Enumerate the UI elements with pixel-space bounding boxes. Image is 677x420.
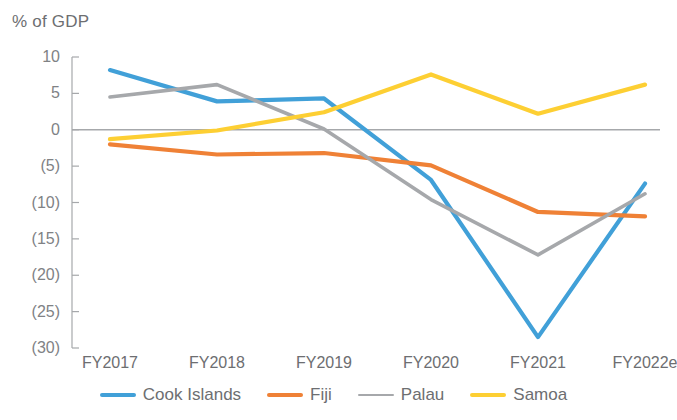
y-axis-tick-label: (25) xyxy=(0,303,60,321)
y-axis-tick-label: 5 xyxy=(0,84,60,102)
legend-swatch-icon xyxy=(100,393,136,397)
x-axis-tick-label: FY2018 xyxy=(189,354,245,372)
legend-swatch-icon xyxy=(358,394,394,396)
x-axis-tick-label: FY2019 xyxy=(296,354,352,372)
legend-item-samoa[interactable]: Samoa xyxy=(470,385,567,405)
y-axis-tick-label: 0 xyxy=(0,121,60,139)
legend-swatch-icon xyxy=(470,393,506,397)
x-axis-tick-label: FY2017 xyxy=(82,354,138,372)
chart-legend: Cook IslandsFijiPalauSamoa xyxy=(0,385,667,405)
x-axis-tick-label: FY2022e xyxy=(613,354,677,372)
legend-item-label: Fiji xyxy=(310,385,332,405)
legend-item-label: Cook Islands xyxy=(143,385,241,405)
legend-swatch-icon xyxy=(267,393,303,397)
y-axis-tick-label: (20) xyxy=(0,266,60,284)
y-axis-tick-label: (10) xyxy=(0,194,60,212)
series-line-palau xyxy=(110,85,645,255)
legend-item-label: Palau xyxy=(401,385,444,405)
y-axis-tick-label: (5) xyxy=(0,157,60,175)
series-line-cook-islands xyxy=(110,70,645,337)
series-line-fiji xyxy=(110,144,645,216)
y-axis-tick-label: (30) xyxy=(0,339,60,357)
x-axis-tick-label: FY2021 xyxy=(510,354,566,372)
x-axis-tick-label: FY2020 xyxy=(403,354,459,372)
y-axis-tick-label: 10 xyxy=(0,48,60,66)
y-axis-tick-label: (15) xyxy=(0,230,60,248)
legend-item-palau[interactable]: Palau xyxy=(358,385,444,405)
legend-item-label: Samoa xyxy=(513,385,567,405)
legend-item-cook-islands[interactable]: Cook Islands xyxy=(100,385,241,405)
legend-item-fiji[interactable]: Fiji xyxy=(267,385,332,405)
